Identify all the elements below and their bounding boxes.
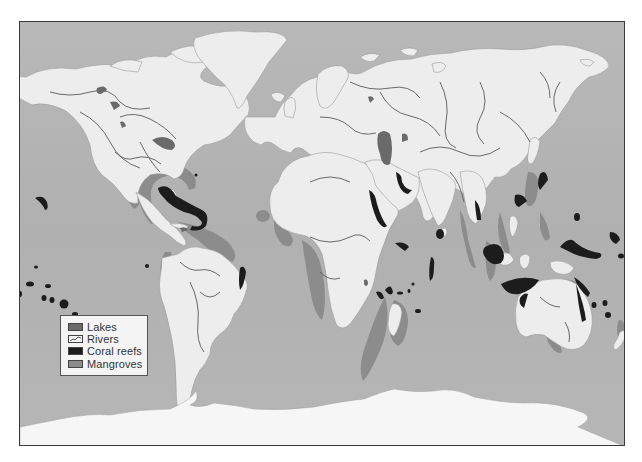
legend-item-mangroves: Mangroves (68, 358, 147, 370)
lakes-swatch-icon (68, 323, 83, 331)
legend-label: Rivers (87, 333, 119, 345)
legend-item-lakes: Lakes (68, 321, 147, 333)
legend-label: Mangroves (87, 358, 142, 370)
world-map (19, 21, 625, 446)
legend-item-rivers: Rivers (68, 333, 147, 345)
map-legend: Lakes Rivers Coral reefs Mangroves (60, 315, 148, 376)
legend-label: Lakes (87, 321, 117, 333)
coral-reefs-swatch-icon (68, 347, 83, 355)
world-map-svg (20, 22, 625, 446)
legend-label: Coral reefs (87, 345, 142, 357)
mangroves-swatch-icon (68, 360, 83, 368)
legend-item-coral-reefs: Coral reefs (68, 345, 147, 357)
rivers-swatch-icon (68, 335, 83, 343)
